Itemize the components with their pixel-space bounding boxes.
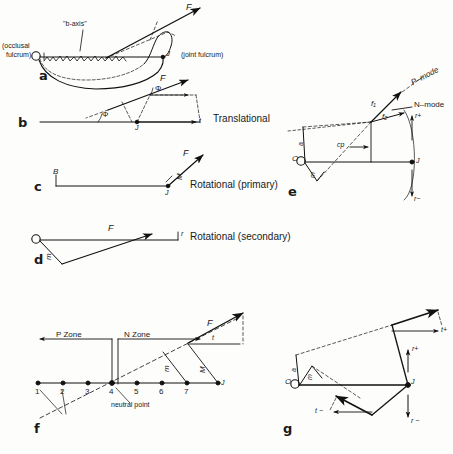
panel-b-angle-upper: Φ — [155, 85, 161, 93]
panel-f-neutral-point-label: neutral point — [111, 401, 150, 408]
figure-vector-layer — [0, 0, 453, 454]
panel-a-occlusal-caption-line1: (occlusal — [2, 42, 30, 49]
panel-f-letter: f — [34, 422, 40, 435]
panel-c-b-label: B — [53, 168, 58, 176]
panel-e-lines — [288, 76, 424, 200]
panel-f-m-label: m — [163, 365, 171, 372]
panel-e-f2-label: f₂ — [382, 113, 387, 121]
figure-root: a "b-axis" (occlusal fulcrum) (joint ful… — [0, 0, 453, 454]
panel-b-mode-label: Translational — [213, 114, 270, 124]
panel-e-letter: e — [288, 185, 297, 198]
panel-a-joint-label: J — [166, 50, 170, 58]
panel-c-mode-label: Rotational (primary) — [190, 180, 278, 190]
panel-a-baxis-label: "b-axis" — [63, 20, 87, 27]
panel-f-moment-label: M — [199, 366, 207, 373]
panel-c-lines — [56, 155, 203, 188]
panel-g-rminus-label: r − — [411, 417, 419, 424]
panel-e-origin-label: O — [292, 155, 298, 163]
panel-g-tminus-label: t − — [315, 407, 323, 414]
panel-b-angle-lower: Φ — [102, 111, 108, 119]
panel-e-m-label: m — [309, 172, 316, 178]
panel-e-rminus-label: r− — [414, 195, 420, 202]
panel-d-r-label: r — [181, 230, 183, 237]
panel-d-force-label: F — [108, 224, 114, 233]
panel-d-letter: d — [34, 253, 43, 266]
panel-e-a-label: a — [297, 142, 304, 146]
panel-f-tick-4: 4 — [109, 388, 113, 396]
panel-c-letter: c — [34, 180, 42, 193]
panel-d-m-label: m — [45, 253, 53, 260]
panel-f-joint-label: J — [221, 379, 225, 386]
panel-c-joint-label: J — [165, 189, 169, 196]
panel-f-tick-6: 6 — [159, 388, 163, 396]
panel-g-letter: g — [283, 422, 292, 435]
panel-g-joint-label: J — [411, 378, 415, 385]
panel-d-lines — [32, 232, 178, 264]
panel-c-force-label: F — [183, 149, 189, 158]
panel-e-joint-label: J — [416, 157, 420, 164]
panel-d-mode-label: Rotational (secondary) — [190, 232, 291, 242]
panel-g-a-label: a — [290, 368, 297, 372]
panel-c-moment-label: M — [176, 173, 184, 180]
panel-a-lines — [32, 8, 200, 89]
panel-a-occlusal-caption-line2: fulcrum) — [6, 51, 31, 58]
panel-e-nmode-label: N–mode — [414, 101, 444, 109]
panel-e-f1-label: f₁ — [371, 100, 376, 108]
panel-a-force-label: F — [186, 3, 192, 12]
panel-g-rplus-label: r+ — [412, 345, 418, 352]
panel-b-letter: b — [18, 116, 27, 129]
panel-f-tick-5: 5 — [134, 388, 138, 396]
panel-b-force-label: F — [160, 74, 166, 83]
panel-g-m-label: m — [306, 374, 313, 380]
panel-a-letter: a — [39, 69, 48, 82]
panel-e-rplus-label: r+ — [415, 112, 421, 119]
panel-e-cp-label: cp — [337, 141, 344, 148]
panel-f-tick-3: 3 — [85, 388, 89, 396]
panel-f-tick-7: 7 — [184, 388, 188, 396]
panel-b-joint-label: J — [135, 124, 139, 131]
panel-f-tick-1: 1 — [35, 388, 39, 396]
panel-g-lines — [291, 310, 442, 417]
panel-b-t-label: t — [199, 117, 201, 124]
panel-f-nzone-label: N Zone — [124, 331, 150, 339]
panel-b-lines — [40, 80, 200, 124]
panel-g-tplus-label: t+ — [441, 326, 447, 333]
panel-f-tick-2: 2 — [60, 388, 64, 396]
panel-f-pzone-label: P Zone — [56, 331, 82, 339]
panel-g-origin-label: O — [285, 378, 291, 386]
panel-a-joint-caption: (joint fulcrum) — [181, 51, 223, 58]
panel-f-force-label: F — [207, 319, 213, 328]
panel-f-t-label: t — [212, 334, 214, 341]
